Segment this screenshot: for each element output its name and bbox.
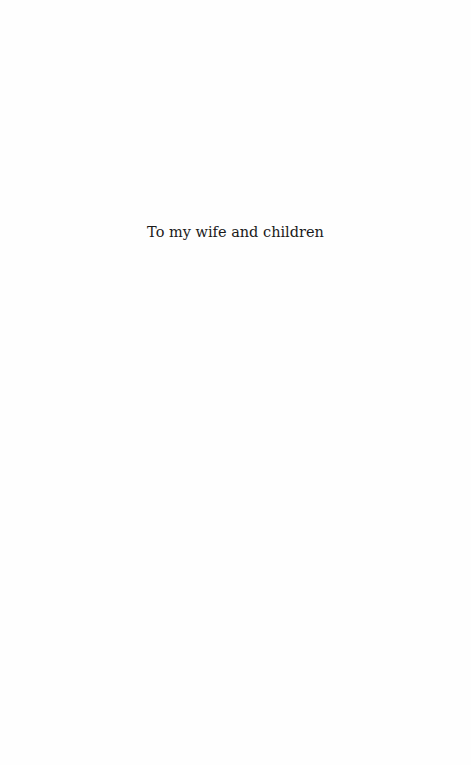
book-page: To my wife and children — [0, 0, 471, 765]
dedication-text: To my wife and children — [0, 224, 471, 240]
